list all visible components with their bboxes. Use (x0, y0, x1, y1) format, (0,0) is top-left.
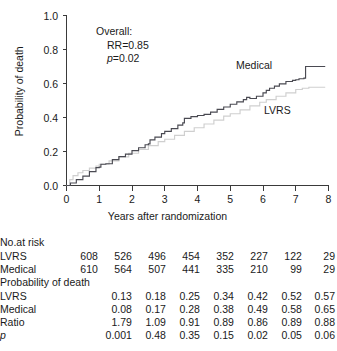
p-value-number: =0.02 (113, 52, 140, 64)
table-cell: 0.34 (200, 289, 234, 302)
table-cell: 496 (132, 249, 166, 262)
table-row-label: Medical (0, 263, 64, 276)
table-cell: 0.05 (268, 329, 302, 342)
y-tick-label-1-0: 1.0 (28, 11, 58, 22)
overall-statistics-annotation: Overall: RR=0.85 p=0.02 (96, 25, 149, 66)
table-row: Medical6105645074413352109929 (0, 263, 335, 276)
table-cell: 608 (64, 249, 98, 262)
table-row: Medical0.080.170.280.380.490.580.65 (0, 302, 335, 315)
relative-risk-text: RR=0.85 (96, 39, 149, 53)
table-cell: 0.57 (302, 289, 335, 302)
table-cell (64, 329, 98, 342)
table-section-header: Probability of death (0, 276, 335, 289)
table-cell: 0.06 (302, 329, 335, 342)
x-tick-label-1: 1 (91, 194, 107, 205)
table-cell: 441 (166, 263, 200, 276)
y-tick-label-0-2: 0.2 (28, 147, 58, 158)
table-cell: 610 (64, 263, 98, 276)
table-cell: 0.65 (302, 302, 335, 315)
table-cell: 0.58 (268, 302, 302, 315)
chart-plot-area: 1.0 0.8 0.6 0.4 0.2 0.0 0 1 2 3 4 5 6 7 … (0, 0, 335, 232)
table-cell: 335 (200, 263, 234, 276)
table-cell: 29 (302, 249, 335, 262)
table-row-label: Ratio (0, 316, 64, 329)
table-cell: 0.38 (200, 302, 234, 315)
p-value-text: p=0.02 (96, 52, 149, 66)
table-cell: 0.89 (268, 316, 302, 329)
curve-lvrs (67, 87, 326, 185)
table-cell: 99 (268, 263, 302, 276)
risk-and-probability-table: No.at riskLVRS60852649645435222712229Med… (0, 236, 335, 342)
table-cell: 210 (234, 263, 268, 276)
table-cell: 0.08 (98, 302, 132, 315)
table-cell: 1.09 (132, 316, 166, 329)
table-cell: 0.52 (268, 289, 302, 302)
table-row-label: LVRS (0, 249, 64, 262)
x-tick-label-6: 6 (255, 194, 271, 205)
table-cell: 0.13 (98, 289, 132, 302)
table-cell: 0.91 (166, 316, 200, 329)
curve-label-lvrs: LVRS (264, 105, 291, 116)
table-cell: 0.28 (166, 302, 200, 315)
y-tick-label-0-8: 0.8 (28, 45, 58, 56)
x-tick-label-3: 3 (157, 194, 173, 205)
table-cell: 0.49 (234, 302, 268, 315)
table-cell: 0.48 (132, 329, 166, 342)
table-cell: 122 (268, 249, 302, 262)
table-cell: 0.02 (234, 329, 268, 342)
x-axis-ticks (67, 186, 329, 191)
table-cell: 0.86 (234, 316, 268, 329)
x-tick-label-2: 2 (124, 194, 140, 205)
p-symbol-label: p (0, 329, 6, 341)
table-row-label: LVRS (0, 289, 64, 302)
x-tick-label-0: 0 (59, 194, 75, 205)
table-cell: 352 (200, 249, 234, 262)
y-axis-ticks (63, 16, 67, 186)
x-axis-title: Years after randomization (0, 211, 335, 222)
table-cell: 0.25 (166, 289, 200, 302)
overall-header-text: Overall: (96, 25, 149, 39)
table-cell: 0.88 (302, 316, 335, 329)
x-tick-label-4: 4 (190, 194, 206, 205)
x-tick-label-8: 8 (321, 194, 337, 205)
x-tick-label-5: 5 (222, 194, 238, 205)
table-section-header-row: No.at risk (0, 236, 335, 249)
table-cell: 0.001 (98, 329, 132, 342)
table-row: LVRS60852649645435222712229 (0, 249, 335, 262)
y-tick-label-0-4: 0.4 (28, 113, 58, 124)
table-cell (64, 302, 98, 315)
table-cell: 0.89 (200, 316, 234, 329)
table-cell: 0.17 (132, 302, 166, 315)
table-cell: 454 (166, 249, 200, 262)
table-section-header-row: Probability of death (0, 276, 335, 289)
y-axis-title: Probability of death (14, 26, 25, 156)
curve-label-medical: Medical (236, 60, 272, 71)
table-cell: 564 (98, 263, 132, 276)
table-row: LVRS0.130.180.250.340.420.520.57 (0, 289, 335, 302)
table-cell: 0.42 (234, 289, 268, 302)
table-cell: 1.79 (98, 316, 132, 329)
table-cell: 526 (98, 249, 132, 262)
table-row-label: Medical (0, 302, 64, 315)
x-tick-label-7: 7 (288, 194, 304, 205)
risk-table-grid: No.at riskLVRS60852649645435222712229Med… (0, 236, 335, 342)
y-tick-label-0-0: 0.0 (28, 181, 58, 192)
table-row-label: p (0, 329, 64, 342)
table-section-header: No.at risk (0, 236, 335, 249)
curve-medical (67, 67, 326, 186)
y-tick-label-0-6: 0.6 (28, 79, 58, 90)
table-cell: 0.15 (200, 329, 234, 342)
table-row: Ratio1.791.090.910.890.860.890.88 (0, 316, 335, 329)
table-cell: 29 (302, 263, 335, 276)
table-cell (64, 316, 98, 329)
table-cell (64, 289, 98, 302)
table-cell: 227 (234, 249, 268, 262)
table-row: p0.0010.480.350.150.020.050.06 (0, 329, 335, 342)
table-cell: 0.35 (166, 329, 200, 342)
table-cell: 507 (132, 263, 166, 276)
table-cell: 0.18 (132, 289, 166, 302)
